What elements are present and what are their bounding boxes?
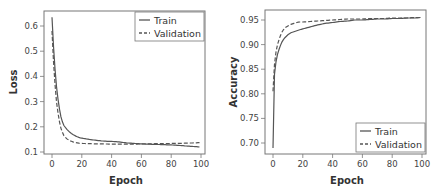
y-tick-label: 0.90 [240, 40, 259, 50]
y-tick-label: 0.4 [24, 71, 38, 81]
y-tick-label: 0.80 [240, 89, 259, 99]
loss-x-axis: 020406080100 [49, 154, 209, 169]
loss-legend-validation: Validation [154, 28, 201, 39]
loss-x-label: Epoch [109, 175, 143, 186]
validation-series-line [273, 18, 421, 92]
accuracy-x-label: Epoch [330, 175, 364, 186]
loss-y-axis: 0.10.20.30.40.50.6 [24, 21, 44, 157]
loss-chart: 0.10.20.30.40.50.6 020406080100 Loss Epo… [8, 11, 209, 186]
accuracy-legend: Train Validation [356, 123, 425, 152]
y-tick-label: 0.95 [240, 15, 259, 25]
x-tick-label: 20 [297, 159, 308, 169]
y-tick-label: 0.5 [24, 46, 38, 56]
accuracy-chart: 0.700.750.800.850.900.95 020406080100 Ac… [228, 10, 430, 186]
y-tick-label: 0.2 [24, 122, 38, 132]
y-tick-label: 0.75 [240, 113, 259, 123]
x-tick-label: 60 [357, 159, 368, 169]
y-tick-label: 0.1 [24, 147, 38, 157]
x-tick-label: 40 [327, 159, 338, 169]
x-tick-label: 60 [136, 159, 147, 169]
y-tick-label: 0.70 [240, 138, 259, 148]
accuracy-legend-train: Train [374, 126, 398, 137]
x-tick-label: 0 [49, 159, 54, 169]
x-tick-label: 80 [166, 159, 177, 169]
x-tick-label: 20 [76, 159, 87, 169]
accuracy-x-axis: 020406080100 [270, 154, 430, 169]
x-tick-label: 80 [387, 159, 398, 169]
loss-legend: Train Validation [135, 12, 204, 41]
x-tick-label: 0 [270, 159, 275, 169]
y-tick-label: 0.3 [24, 97, 38, 107]
accuracy-y-axis: 0.700.750.800.850.900.95 [240, 15, 265, 148]
loss-y-label: Loss [8, 69, 19, 94]
accuracy-legend-validation: Validation [375, 139, 422, 150]
figure: 0.10.20.30.40.50.6 020406080100 Loss Epo… [0, 0, 434, 194]
accuracy-y-label: Accuracy [228, 56, 239, 107]
x-tick-label: 100 [414, 159, 430, 169]
loss-legend-train: Train [153, 15, 177, 26]
y-tick-label: 0.6 [24, 21, 38, 31]
y-tick-label: 0.85 [240, 64, 259, 74]
x-tick-label: 40 [106, 159, 117, 169]
validation-series-line [52, 31, 200, 144]
x-tick-label: 100 [193, 159, 209, 169]
